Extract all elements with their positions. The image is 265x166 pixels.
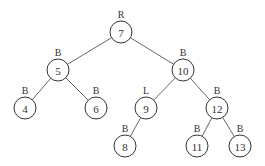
node-label: 10	[178, 65, 190, 77]
edge-5-6	[66, 78, 88, 100]
node-label: 4	[22, 103, 28, 115]
edge-7-5	[67, 38, 111, 65]
tree-nodes: R7B5B10B4B6L9B12B8B11B13	[14, 9, 251, 157]
node-label: 8	[122, 141, 128, 153]
tree-node-5: B5	[47, 47, 69, 81]
tree-node-4: B4	[14, 85, 36, 119]
node-tag: B	[55, 47, 62, 58]
node-label: 6	[93, 103, 99, 115]
node-tag: B	[194, 123, 201, 134]
tree-node-8: B8	[114, 123, 136, 157]
tree-node-13: B13	[229, 123, 251, 157]
edge-12-13	[223, 117, 235, 136]
edge-9-8	[130, 118, 140, 137]
binary-tree-diagram: R7B5B10B4B6L9B12B8B11B13	[0, 0, 265, 166]
node-tag: L	[143, 85, 149, 96]
tree-node-9: L9	[135, 85, 157, 119]
node-tag: R	[118, 9, 125, 20]
tree-node-7: R7	[110, 9, 132, 43]
tree-node-10: B10	[172, 47, 194, 81]
tree-node-6: B6	[85, 85, 107, 119]
tree-node-11: B11	[186, 123, 208, 157]
edge-7-10	[130, 38, 173, 65]
node-tag: B	[122, 123, 129, 134]
node-tag: B	[214, 85, 221, 96]
node-label: 7	[118, 27, 124, 39]
tree-edges	[32, 38, 234, 137]
node-label: 12	[212, 103, 223, 115]
node-tag: B	[22, 85, 29, 96]
tree-node-12: B12	[206, 85, 228, 119]
edge-10-12	[190, 78, 209, 100]
edge-10-9	[154, 78, 176, 100]
node-tag: B	[93, 85, 100, 96]
node-label: 11	[192, 141, 203, 153]
node-label: 13	[235, 141, 247, 153]
edge-5-4	[32, 78, 51, 99]
node-label: 5	[55, 65, 61, 77]
edge-12-11	[202, 118, 212, 137]
node-label: 9	[143, 103, 149, 115]
node-tag: B	[180, 47, 187, 58]
node-tag: B	[237, 123, 244, 134]
